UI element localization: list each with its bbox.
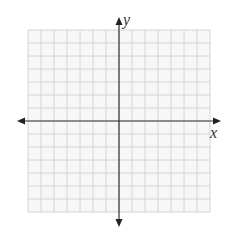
x-axis-left-arrow-icon bbox=[17, 118, 25, 125]
y-axis-down-arrow-icon bbox=[116, 219, 123, 227]
y-axis-label: y bbox=[123, 12, 130, 28]
coordinate-plane bbox=[0, 0, 231, 236]
y-axis-up-arrow-icon bbox=[116, 17, 123, 25]
x-axis-label: x bbox=[210, 125, 217, 141]
